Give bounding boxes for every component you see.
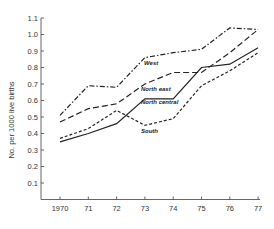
y-tick-label: 0.6	[28, 96, 38, 105]
y-tick-label: 0.7	[28, 80, 38, 89]
y-tick-label: 1.0	[28, 30, 38, 39]
series-labels: WestNorth eastNorth centralSouth	[141, 60, 179, 134]
y-tick-label: 0.3	[28, 146, 38, 155]
x-tick-label: 77	[254, 204, 262, 213]
y-tick-label: 0.1	[28, 179, 38, 188]
y-tick-label: 1.1	[28, 14, 38, 23]
x-tick-label: 73	[141, 204, 149, 213]
series-label: North east	[141, 86, 172, 92]
x-tick-label: 75	[197, 204, 205, 213]
series-line-north-east	[60, 30, 258, 123]
x-tick-label: 76	[226, 204, 234, 213]
x-tick-label: 74	[169, 204, 177, 213]
y-axis-title: No. per 1000 live births	[7, 81, 16, 158]
x-tick-label: 71	[84, 204, 92, 213]
y-tick-label: 0.5	[28, 113, 38, 122]
line-chart: 0.10.20.30.40.50.60.70.80.91.01.11970717…	[0, 0, 274, 229]
y-tick-label: 0.9	[28, 47, 38, 56]
series-label: South	[141, 128, 158, 134]
series-label: West	[144, 60, 159, 66]
series-line-south	[60, 53, 258, 139]
y-tick-label: 0.4	[28, 129, 38, 138]
y-tick-label: 0.2	[28, 162, 38, 171]
x-tick-label: 1970	[52, 204, 69, 213]
series-group	[60, 28, 258, 142]
series-label: North central	[141, 99, 179, 105]
x-tick-label: 72	[112, 204, 120, 213]
y-tick-label: 0.8	[28, 63, 38, 72]
